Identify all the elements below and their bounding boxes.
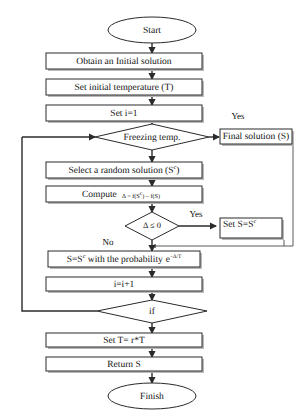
node-set-t[interactable]: Set T= r*T (46, 333, 204, 349)
node-set-i[interactable]: Set i=1 (46, 105, 204, 123)
select-random-tail: ) (176, 166, 179, 176)
node-delta-check-label: Δ ≤ 0 (143, 221, 161, 230)
edge-label-delta-no: No (103, 237, 114, 247)
node-increment-label: i=i+1 (114, 280, 135, 290)
node-final-solution-label: Final solution (S) (223, 132, 290, 142)
edge-label-freezing-yes: Yes (231, 111, 245, 121)
node-final-solution[interactable]: Final solution (S) (220, 129, 294, 146)
node-freezing-temp[interactable]: Freezing temp. (95, 124, 209, 150)
node-start-label: Start (143, 26, 161, 36)
node-compute-delta[interactable]: Compute Δ = f(Sc) – f(S) (46, 186, 204, 204)
probability-prefix: S=S (67, 255, 83, 265)
node-select-random-solution-label: Select a random solution (Sc) (68, 164, 179, 176)
probability-mid: with the probability (85, 255, 163, 265)
flowchart-canvas: Start Obtain an Initial solution Set ini… (0, 0, 307, 418)
edge-set-s-to-merge (152, 240, 293, 246)
node-set-t-label: Set T= r*T (103, 336, 145, 346)
node-delta-check[interactable]: Δ ≤ 0 (125, 212, 179, 240)
node-if-check[interactable]: if (97, 300, 207, 323)
compute-formula-mid: ) – f(S) (142, 193, 160, 200)
node-obtain-initial-solution[interactable]: Obtain an Initial solution (46, 53, 204, 71)
node-probability[interactable]: S=Sc with the probabilitye−Δ/T (48, 251, 202, 269)
node-set-temperature[interactable]: Set initial temperature (T) (46, 79, 204, 97)
node-if-check-label: if (149, 307, 156, 317)
probability-exp-sup: −Δ/T (170, 254, 182, 260)
set-s-sup: c (253, 218, 256, 225)
node-increment[interactable]: i=i+1 (46, 277, 204, 293)
compute-formula-prefix: Δ = f(S (122, 193, 140, 200)
node-set-s[interactable]: Set S=Sc (220, 218, 284, 240)
node-return-s-label: Return S (107, 360, 141, 370)
node-set-i-label: Set i=1 (110, 109, 138, 119)
edge-label-delta-yes: Yes (189, 209, 203, 219)
node-set-temperature-label: Set initial temperature (T) (75, 83, 174, 93)
node-select-random-solution[interactable]: Select a random solution (Sc) (46, 162, 204, 180)
node-compute-label: Compute (82, 190, 117, 200)
node-obtain-initial-solution-label: Obtain an Initial solution (76, 57, 172, 67)
node-start[interactable]: Start (108, 17, 196, 43)
node-freezing-temp-label: Freezing temp. (124, 133, 181, 143)
node-set-s-label: Set S=Sc (223, 218, 256, 230)
node-return-s[interactable]: Return S (46, 357, 204, 373)
set-s-main: Set S=S (223, 220, 253, 230)
select-random-main: Select a random solution (S (68, 166, 173, 176)
node-finish-label: Finish (140, 392, 164, 402)
flowchart-svg: Start Obtain an Initial solution Set ini… (0, 0, 307, 418)
node-finish[interactable]: Finish (108, 383, 196, 409)
